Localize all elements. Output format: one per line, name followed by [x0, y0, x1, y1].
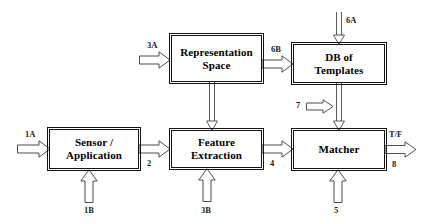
arrow-label-6a: 6A	[346, 16, 356, 25]
block-matcher-label: Matcher	[316, 143, 361, 156]
arrow-input-3a	[139, 51, 171, 69]
block-representation-space: Representation Space	[171, 35, 262, 82]
arrow-label-2: 2	[147, 159, 151, 168]
arrow-label-1a: 1A	[25, 130, 35, 139]
arrow-label-3a: 3A	[147, 41, 157, 50]
arrow-representation-to-feature	[204, 82, 220, 131]
block-sensor-application-label: Sensor / Application	[64, 136, 124, 162]
arrow-label-6b: 6B	[271, 45, 281, 54]
arrow-feature-to-matcher-4	[262, 140, 294, 158]
arrow-label-4: 4	[270, 159, 274, 168]
arrow-input-1b	[80, 169, 98, 203]
arrow-input-6a	[331, 12, 347, 45]
arrow-input-5	[329, 169, 347, 203]
arrow-input-1a	[17, 140, 51, 158]
arrow-output-decision	[385, 141, 417, 158]
block-matcher: Matcher	[293, 130, 385, 169]
arrow-input-7	[306, 99, 334, 114]
biometric-system-diagram: Sensor / Application Representation Spac…	[0, 0, 430, 224]
arrow-label-7: 7	[296, 101, 300, 110]
arrow-representation-to-database-6b	[262, 55, 294, 73]
arrow-label-5: 5	[334, 206, 338, 215]
arrow-label-8: 8	[392, 160, 396, 169]
block-representation-space-label: Representation Space	[178, 46, 255, 72]
arrow-label-3b: 3B	[201, 206, 211, 215]
block-feature-extraction: Feature Extraction	[171, 130, 262, 168]
arrow-label-decision: T/F	[389, 130, 402, 139]
arrow-label-1b: 1B	[84, 206, 94, 215]
block-feature-extraction-label: Feature Extraction	[189, 136, 244, 162]
block-db-of-templates-label: DB of Templates	[313, 51, 366, 77]
arrow-input-3b	[198, 168, 216, 202]
arrow-sensor-to-feature-2	[139, 140, 171, 158]
block-sensor-application: Sensor / Application	[49, 129, 139, 169]
block-db-of-templates: DB of Templates	[293, 44, 385, 83]
